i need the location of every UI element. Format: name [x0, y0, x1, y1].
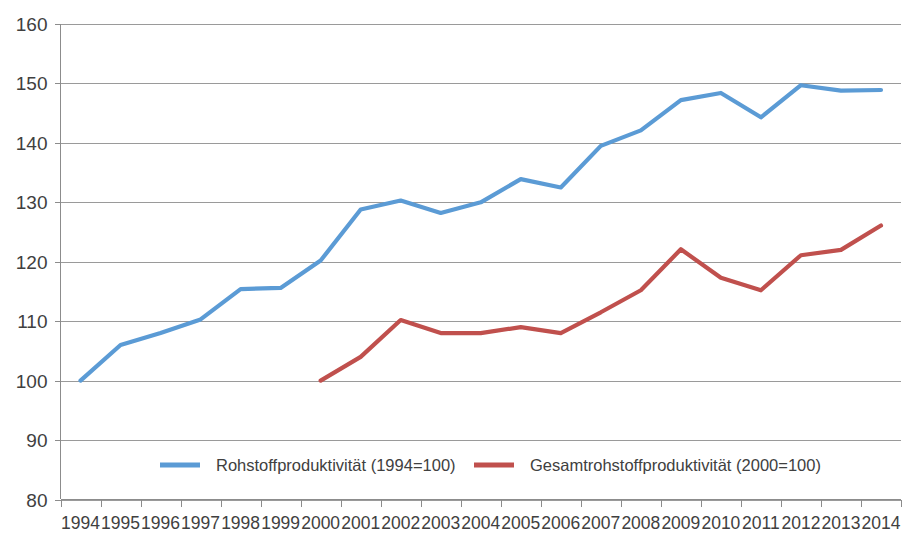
- x-axis-tick-labels: 1994199519961997199819992000200120022003…: [61, 513, 901, 533]
- y-axis-tick-label: 100: [16, 371, 48, 392]
- y-tick-marks: [55, 25, 61, 501]
- y-axis-tick-label: 160: [16, 14, 48, 35]
- x-axis-tick-label: 2004: [461, 513, 500, 533]
- x-axis-tick-label: 1999: [261, 513, 300, 533]
- x-axis-tick-label: 2009: [661, 513, 700, 533]
- legend-item-label: Rohstoffproduktivität (1994=100): [216, 456, 456, 474]
- x-axis-tick-label: 2001: [341, 513, 380, 533]
- line-chart: 8090100110120130140150160 19941995199619…: [0, 0, 920, 552]
- x-axis-tick-label: 2011: [742, 513, 780, 533]
- x-axis-tick-label: 2010: [701, 513, 740, 533]
- y-axis-tick-labels: 8090100110120130140150160: [16, 14, 48, 511]
- x-axis-tick-label: 2007: [581, 513, 620, 533]
- data-series-group: [81, 85, 881, 380]
- x-axis-tick-label: 2003: [421, 513, 460, 533]
- x-axis-tick-label: 2002: [381, 513, 420, 533]
- y-axis-tick-label: 140: [16, 133, 48, 154]
- series-line: [81, 85, 881, 380]
- y-axis-tick-label: 110: [17, 311, 47, 332]
- chart-legend: Rohstoffproduktivität (1994=100)Gesamtro…: [160, 456, 821, 474]
- legend-item-label: Gesamtrohstoffproduktivität (2000=100): [530, 456, 821, 474]
- x-axis-tick-label: 1996: [141, 513, 180, 533]
- x-axis-tick-label: 1995: [101, 513, 140, 533]
- gridlines: [61, 25, 902, 501]
- y-axis-tick-label: 120: [16, 252, 48, 273]
- x-axis-tick-label: 2006: [541, 513, 580, 533]
- x-axis-tick-label: 2000: [301, 513, 340, 533]
- series-line: [321, 225, 881, 380]
- x-axis-tick-label: 1997: [181, 513, 220, 533]
- chart-canvas: 8090100110120130140150160 19941995199619…: [0, 0, 920, 552]
- y-axis-tick-label: 90: [26, 430, 47, 451]
- x-axis-tick-label: 2014: [862, 513, 901, 533]
- x-axis-tick-label: 2013: [821, 513, 860, 533]
- x-axis-tick-label: 2008: [621, 513, 660, 533]
- y-axis-tick-label: 130: [16, 192, 48, 213]
- y-axis-tick-label: 80: [26, 490, 47, 511]
- x-axis-tick-label: 1994: [61, 513, 100, 533]
- x-axis-tick-label: 1998: [221, 513, 260, 533]
- y-axis-tick-label: 150: [16, 73, 48, 94]
- x-axis-tick-label: 2005: [501, 513, 540, 533]
- x-axis-tick-label: 2012: [781, 513, 820, 533]
